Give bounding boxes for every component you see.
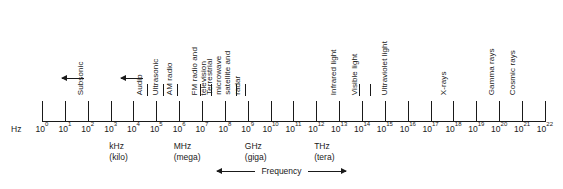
band-label: Gamma rays: [487, 48, 496, 95]
axis-tick-label: 1021: [514, 124, 530, 134]
axis-tick: [339, 101, 340, 122]
axis-tick: [179, 101, 180, 122]
band-label-line: Ultraviolet light: [380, 41, 389, 95]
band-label-line: Ultrasonic: [151, 58, 160, 95]
axis-tick-label: 109: [241, 124, 254, 134]
unit-label: MHz(mega): [174, 141, 201, 163]
axis-tick-label: 1019: [468, 124, 484, 134]
unit-label: THz(tera): [314, 141, 334, 163]
band-label: Visible light: [350, 53, 359, 95]
unit-label: kHz(kilo): [109, 141, 127, 163]
axis-tick-label: 103: [104, 124, 117, 134]
band-stem: [147, 84, 148, 96]
axis-tick: [316, 101, 317, 122]
axis-tick: [293, 101, 294, 122]
unit-symbol: MHz: [174, 141, 201, 152]
band-label-line: Audio: [135, 74, 144, 95]
axis-tick: [408, 101, 409, 122]
unit-word: (kilo): [109, 152, 127, 163]
axis-tick: [248, 101, 249, 122]
axis-tick: [431, 101, 432, 122]
axis-tick: [453, 101, 454, 122]
axis-tick-label: 1013: [331, 124, 347, 134]
band-label-line: Visible light: [350, 53, 359, 95]
axis-tick-label: 1012: [308, 124, 324, 134]
band-label: Subsonic: [76, 61, 85, 95]
axis-tick: [499, 101, 500, 122]
axis-tick-label: 102: [81, 124, 94, 134]
frequency-spectrum-diagram: Hz 1001011021031041051061071081091010101…: [0, 0, 563, 189]
unit-symbol: kHz: [109, 141, 127, 152]
band-stem: [370, 84, 371, 96]
axis-tick-label: 104: [127, 124, 140, 134]
frequency-arrow-right: [308, 171, 346, 172]
band-label-line: FM radio and: [190, 47, 199, 95]
axis-tick-label: 1018: [445, 124, 461, 134]
axis-tick-label: 1022: [537, 124, 553, 134]
axis-tick-label: 106: [173, 124, 186, 134]
axis-tick: [65, 101, 66, 122]
band-label: Cosmic rays: [508, 50, 517, 95]
axis-tick-label: 1017: [423, 124, 439, 134]
band-stem: [177, 84, 178, 96]
axis-tick: [545, 101, 546, 122]
unit-word: (mega): [174, 152, 201, 163]
axis-tick-label: 1016: [400, 124, 416, 134]
band-label: Infrared light: [329, 49, 338, 95]
band-label: Ultraviolet light: [380, 41, 389, 95]
axis-tick: [42, 101, 43, 122]
axis-tick: [476, 101, 477, 122]
frequency-caption: Frequency: [0, 166, 563, 176]
band-label: Terrestrialmicrowavesatellite andradar: [206, 51, 243, 95]
axis-tick: [133, 101, 134, 122]
axis-tick: [362, 101, 363, 122]
band-label-line: satellite and: [224, 51, 233, 95]
axis-tick-label: 1015: [377, 124, 393, 134]
axis-tick-label: 1014: [354, 124, 370, 134]
axis-tick: [271, 101, 272, 122]
axis-unit-label: Hz: [11, 124, 21, 134]
unit-label: GHz(giga): [245, 141, 267, 163]
unit-symbol: THz: [314, 141, 334, 152]
frequency-caption-label: Frequency: [255, 166, 307, 176]
band-label-line: Subsonic: [76, 61, 85, 95]
axis-tick-label: 1010: [263, 124, 279, 134]
band-label-line: Infrared light: [329, 49, 338, 95]
axis-tick: [385, 101, 386, 122]
axis-tick: [88, 101, 89, 122]
band-label-line: Gamma rays: [487, 48, 496, 95]
band-label-line: X-rays: [439, 71, 448, 95]
band-label: Ultrasonic: [151, 58, 160, 95]
axis-tick: [111, 101, 112, 122]
unit-symbol: GHz: [245, 141, 267, 152]
band-label: Audio: [135, 74, 144, 95]
unit-word: (giga): [245, 152, 267, 163]
axis-tick-label: 108: [218, 124, 231, 134]
axis-tick-label: 100: [36, 124, 49, 134]
axis-tick-label: 1020: [491, 124, 507, 134]
band-label-line: Cosmic rays: [508, 50, 517, 95]
axis-tick-label: 107: [196, 124, 209, 134]
band-label: AM radio: [165, 62, 174, 95]
band-label: X-rays: [439, 71, 448, 95]
unit-word: (tera): [314, 152, 334, 163]
band-stem: [245, 84, 246, 96]
axis-tick-label: 101: [58, 124, 71, 134]
frequency-arrow-left: [217, 171, 255, 172]
band-label-line: AM radio: [165, 62, 174, 95]
axis-tick-label: 105: [150, 124, 163, 134]
axis-tick: [225, 101, 226, 122]
axis-tick: [202, 101, 203, 122]
axis-tick: [156, 101, 157, 122]
axis-tick-label: 1011: [286, 124, 302, 134]
band-label-line: radar: [233, 51, 242, 95]
axis-tick: [522, 101, 523, 122]
